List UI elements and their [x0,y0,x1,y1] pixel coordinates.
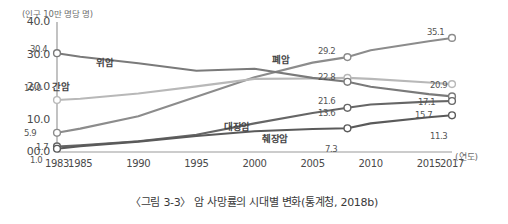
x-tick-label: 1995 [176,158,216,169]
data-point-marker [54,129,61,136]
data-point-marker [344,54,351,61]
data-point-value-label: 1.0 [30,155,42,165]
series-line-0 [57,38,452,133]
chart-series-group [57,38,452,149]
data-point-value-label: 30.4 [30,44,47,54]
x-tick-label: 2005 [293,158,333,169]
data-point-marker [54,50,61,57]
data-point-value-label: 35.1 [427,27,444,37]
data-point-marker [449,112,456,119]
data-point-marker [449,81,456,88]
series-label-대장암: 대장암 [224,119,250,133]
figure-container: (인구 10만 명당 명) (연도) 40.030.020.010.000.0 … [0,0,508,224]
data-point-value-label: 5.9 [24,128,36,138]
data-point-marker [344,104,351,111]
x-tick-label: 1990 [118,158,158,169]
x-tick-label: 2017 [432,158,472,169]
series-label-간암: 간암 [52,79,69,93]
data-point-value-label: 11.3 [430,131,447,141]
x-tick-label: 2010 [351,158,391,169]
data-point-value-label: 7.3 [325,144,337,154]
data-point-value-label: 22.8 [318,72,335,82]
data-point-value-label: 13.6 [318,108,335,118]
data-point-marker [54,97,61,104]
data-point-value-label: 20.9 [430,80,447,90]
chart-plot-area: (인구 10만 명당 명) (연도) 40.030.020.010.000.0 … [0,0,508,190]
figure-caption: 〈그림 3-3〉 암 사망률의 시대별 변화(통계청, 2018b) [0,193,508,209]
series-label-췌장암: 췌장암 [262,131,288,145]
y-tick-label: 10.0 [16,113,50,126]
chart-marker-group [54,35,456,153]
data-point-marker [449,98,456,105]
series-line-2 [57,53,452,96]
data-point-marker [344,78,351,85]
data-point-marker [449,35,456,42]
data-point-value-label: 21.6 [318,96,335,106]
x-tick-label: 1985 [60,158,100,169]
data-point-value-label: 15.7 [415,110,432,120]
data-point-marker [54,145,61,152]
data-point-value-label: 29.2 [318,46,335,56]
series-line-3 [57,101,452,146]
chart-axes [57,22,452,152]
data-point-value-label: 16.0 [24,83,41,93]
data-point-value-label: 17.1 [418,97,435,107]
series-label-위암: 위암 [96,55,113,69]
y-tick-label: 40.0 [16,15,50,28]
x-tick-label: 2000 [235,158,275,169]
series-label-폐암: 폐암 [272,52,289,66]
data-point-value-label: 1.7 [36,142,48,152]
data-point-marker [344,125,351,132]
